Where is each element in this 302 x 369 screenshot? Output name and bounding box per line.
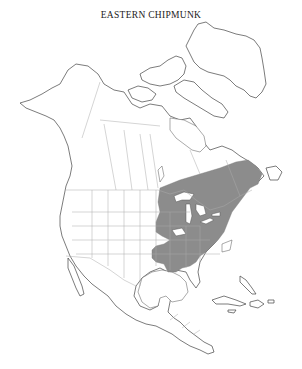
baffin-island xyxy=(174,80,228,118)
hispaniola xyxy=(250,300,264,308)
newfoundland xyxy=(266,166,282,180)
cuba xyxy=(212,296,246,306)
north-america-map xyxy=(0,0,302,369)
puerto-rico xyxy=(268,300,274,303)
range-gap-carolina xyxy=(222,240,232,252)
bahamas xyxy=(240,276,256,294)
victoria-island xyxy=(128,86,156,102)
arctic-islands xyxy=(140,56,186,86)
jamaica xyxy=(228,310,236,313)
